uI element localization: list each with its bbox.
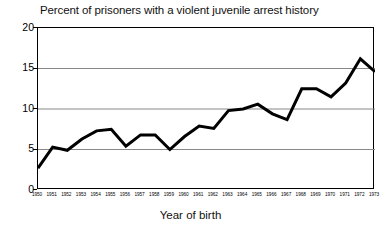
- x-tick-label: 1961: [193, 191, 203, 198]
- x-tick-label: 1956: [120, 191, 130, 198]
- chart-canvas: [38, 28, 375, 190]
- y-tick-label: 0: [4, 184, 34, 195]
- chart-figure: Percent of prisoners with a violent juve…: [0, 0, 381, 230]
- x-tick-label: 1962: [208, 191, 218, 198]
- x-tick-label: 1950: [32, 191, 42, 198]
- x-tick-label: 1958: [149, 191, 159, 198]
- y-tick-label: 20: [4, 22, 34, 33]
- x-axis: 1950195119521953195419551956195719581959…: [37, 191, 374, 203]
- y-axis: 05101520: [0, 27, 34, 189]
- x-tick-label: 1965: [252, 191, 262, 198]
- x-tick-label: 1971: [340, 191, 350, 198]
- x-tick-label: 1954: [90, 191, 100, 198]
- x-tick-label: 1966: [266, 191, 276, 198]
- x-tick-label: 1959: [164, 191, 174, 198]
- chart-title: Percent of prisoners with a violent juve…: [40, 3, 319, 17]
- x-tick-label: 1953: [76, 191, 86, 198]
- x-axis-title: Year of birth: [0, 208, 381, 222]
- y-tick-label: 10: [4, 103, 34, 114]
- x-tick-label: 1952: [61, 191, 71, 198]
- y-tick-mark: [33, 189, 37, 190]
- plot-area: [37, 27, 374, 189]
- x-tick-label: 1963: [222, 191, 232, 198]
- data-series-line: [38, 59, 375, 168]
- x-tick-label: 1969: [310, 191, 320, 198]
- x-tick-label: 1964: [237, 191, 247, 198]
- x-tick-label: 1967: [281, 191, 291, 198]
- x-tick-label: 1968: [296, 191, 306, 198]
- x-tick-label: 1973: [369, 191, 379, 198]
- x-tick-label: 1960: [178, 191, 188, 198]
- gridlines: [38, 69, 375, 150]
- x-tick-label: 1957: [134, 191, 144, 198]
- y-tick-label: 15: [4, 62, 34, 73]
- y-tick-label: 5: [4, 143, 34, 154]
- x-tick-label: 1972: [354, 191, 364, 198]
- x-tick-label: 1970: [325, 191, 335, 198]
- x-tick-label: 1955: [105, 191, 115, 198]
- x-tick-label: 1951: [47, 191, 57, 198]
